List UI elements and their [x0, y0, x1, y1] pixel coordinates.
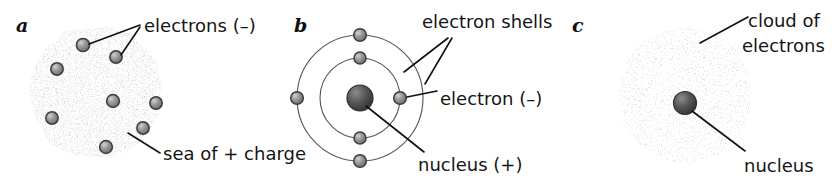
electron-sphere — [107, 95, 120, 108]
panel-a-letter: a — [16, 14, 28, 36]
electron-sphere — [394, 92, 407, 105]
label-electron-b: electron (–) — [440, 88, 542, 109]
label-electrons-c: electrons — [742, 35, 825, 56]
atomic-models-figure: a electrons (–) sea of + charge b — [0, 0, 835, 180]
electron-sphere — [354, 132, 366, 144]
electron-sphere — [291, 92, 304, 105]
label-electron-shells: electron shells — [422, 11, 553, 32]
panel-c-letter: c — [572, 14, 584, 36]
positive-charge-sea — [30, 26, 162, 158]
electron-sphere — [137, 122, 149, 134]
electron-sphere — [110, 51, 122, 63]
electron-sphere — [51, 63, 63, 75]
label-nucleus-b: nucleus (+) — [418, 154, 522, 175]
electron-sphere — [150, 97, 162, 109]
electron-sphere — [46, 112, 58, 124]
label-electrons-a: electrons (–) — [144, 15, 256, 36]
panel-b-letter: b — [294, 14, 307, 36]
label-nucleus-c: nucleus — [744, 155, 814, 176]
electron-sphere — [76, 38, 89, 51]
electron-sphere — [354, 52, 366, 64]
label-cloud-of: cloud of — [748, 10, 820, 31]
electron-sphere — [354, 29, 367, 42]
nucleus-sphere-b — [347, 85, 373, 111]
electron-sphere — [100, 141, 113, 154]
label-sea-of-charge: sea of + charge — [163, 143, 306, 164]
electron-sphere — [354, 155, 367, 168]
